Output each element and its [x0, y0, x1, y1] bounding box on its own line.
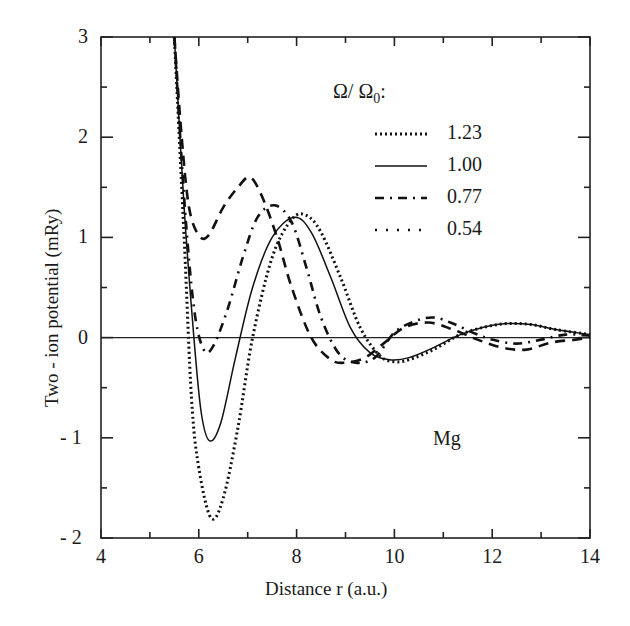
- y-tick-label: 2: [78, 125, 88, 148]
- axis-ticks: [101, 37, 590, 538]
- x-tick-label: 6: [194, 545, 204, 568]
- legend-label: 0.54: [447, 217, 482, 240]
- y-axis-label: Two - ion potential (mRy): [41, 167, 63, 407]
- x-tick-label: 14: [580, 545, 600, 568]
- legend-swatches: [375, 134, 427, 230]
- x-tick-label: 12: [482, 545, 502, 568]
- y-tick-label: - 1: [60, 426, 82, 449]
- y-tick-label: 0: [78, 326, 88, 349]
- x-tick-label: 8: [292, 545, 302, 568]
- chart-canvas: [0, 0, 630, 626]
- series-1.23: [174, 37, 590, 519]
- legend-label: 1.23: [447, 121, 482, 144]
- x-tick-label: 10: [384, 545, 404, 568]
- x-axis-label: Distance r (a.u.): [265, 578, 387, 600]
- x-tick-label: 4: [96, 545, 106, 568]
- legend-label: 0.77: [447, 185, 482, 208]
- y-tick-label: 3: [78, 25, 88, 48]
- y-tick-label: - 2: [60, 526, 82, 549]
- annotation-mg: Mg: [433, 427, 461, 450]
- y-tick-label: 1: [78, 225, 88, 248]
- legend-title: Ω/ Ω0:: [333, 80, 386, 107]
- data-series: [174, 37, 590, 519]
- legend-label: 1.00: [447, 153, 482, 176]
- plot-frame: [101, 37, 590, 538]
